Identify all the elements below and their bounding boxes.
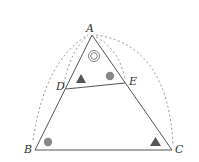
dot-mark-icon-B xyxy=(44,138,52,146)
label-D: D xyxy=(56,81,65,92)
segment-DE xyxy=(66,83,125,89)
triangle-mark-icon-D xyxy=(76,74,86,83)
segment-CA xyxy=(92,35,172,150)
dashed-arc-AC xyxy=(96,35,173,145)
double-circle-icon xyxy=(89,51,100,62)
triangle-mark-icon-C xyxy=(150,137,161,146)
diagram-canvas xyxy=(0,0,199,162)
dot-mark-icon-E xyxy=(106,72,114,80)
label-A: A xyxy=(86,23,94,34)
triangle-diagram: A B C D E xyxy=(0,0,199,162)
label-C: C xyxy=(175,144,183,155)
label-E: E xyxy=(129,76,137,87)
label-B: B xyxy=(24,144,32,155)
